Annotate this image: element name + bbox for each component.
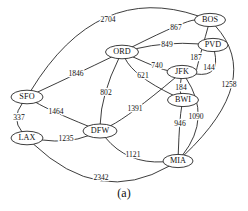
graph-node-bwi[interactable]: BWI — [168, 93, 199, 106]
node-label: LAX — [18, 133, 35, 142]
graph-node-ord[interactable]: ORD — [106, 45, 139, 59]
node-label: BWI — [175, 95, 191, 104]
edge-weight-label: 184 — [175, 83, 187, 92]
edge-weight-label: 337 — [13, 113, 25, 122]
graph-edge — [178, 107, 181, 155]
figure-caption: (a) — [0, 186, 248, 201]
graph-canvas: 2704270418461846337337146414641235123523… — [0, 0, 248, 211]
edge-weight-label: 144 — [203, 63, 215, 72]
edge-weight-label: 187 — [190, 53, 202, 62]
edge-weight-label: 946 — [174, 119, 186, 128]
graph-node-dfw[interactable]: DFW — [83, 124, 117, 138]
node-label: ORD — [113, 47, 131, 56]
graph-node-sfo[interactable]: SFO — [11, 90, 43, 104]
node-label: BOS — [202, 15, 219, 24]
edge-weight-label: 621 — [137, 71, 149, 80]
graph-node-jfk[interactable]: JFK — [167, 65, 197, 78]
edge-weight-label: 1090 — [188, 112, 203, 121]
graph-node-bos[interactable]: BOS — [195, 13, 226, 26]
edge-weight-label: 802 — [100, 88, 112, 97]
figure-container: 2704270418461846337337146414641235123523… — [0, 0, 248, 211]
graph-node-mia[interactable]: MIA — [163, 154, 193, 167]
edge-weight-label: 2342 — [93, 173, 108, 182]
node-label: MIA — [170, 156, 186, 165]
edge-weight-label: 1846 — [68, 69, 83, 78]
graph-edge — [111, 78, 175, 126]
edge-weight-label: 2704 — [100, 15, 115, 24]
edge-weight-label: 1464 — [48, 107, 63, 116]
edge-weight-label: 1391 — [127, 104, 142, 113]
edge-weight-label: 1235 — [58, 134, 73, 143]
node-label: PVD — [205, 40, 222, 49]
edge-weight-label: 867 — [170, 23, 182, 32]
graph-node-pvd[interactable]: PVD — [198, 38, 228, 51]
node-label: JFK — [175, 67, 189, 76]
edge-weight-label: 849 — [161, 40, 173, 49]
graph-node-lax[interactable]: LAX — [11, 131, 43, 145]
edge-weight-label: 740 — [151, 61, 163, 70]
node-label: DFW — [91, 126, 110, 135]
node-label: SFO — [19, 92, 34, 101]
edge-weight-label: 1121 — [126, 150, 141, 159]
edge-weight-label: 1258 — [221, 80, 236, 89]
